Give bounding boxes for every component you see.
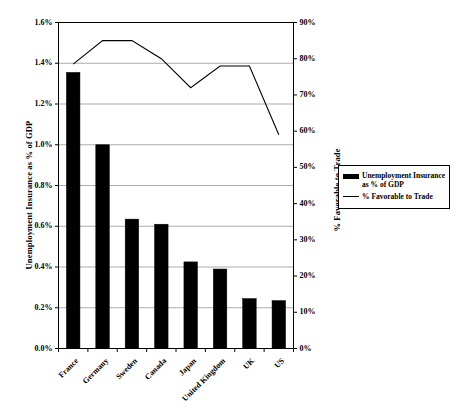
y-axis-left-tick-label: 0.2% — [25, 303, 53, 312]
y-axis-left-tick-label: 1.0% — [25, 140, 53, 149]
y-axis-left-tick-label: 0.6% — [25, 221, 53, 230]
bar-germany — [96, 145, 110, 349]
y-axis-left-tick-label: 0.8% — [25, 181, 53, 190]
plot-area — [0, 0, 458, 419]
legend-item-line: % Favorable to Trade — [342, 192, 446, 201]
y-axis-left-tick-label: 1.4% — [25, 58, 53, 67]
y-axis-left-tick-label: 0.0% — [25, 344, 53, 353]
y-axis-left-ticks — [55, 23, 59, 349]
legend-label-bar-line1: Unemployment Insurance — [362, 171, 445, 180]
y-axis-left-tick-label: 1.2% — [25, 99, 53, 108]
y-axis-right-tick-label: 30% — [300, 235, 330, 244]
bar-japan — [184, 262, 198, 349]
y-axis-right-tick-label: 50% — [300, 162, 330, 171]
bar-uk — [243, 299, 257, 349]
bar-swatch-icon — [343, 174, 359, 179]
y-axis-left-tick-label: 1.6% — [25, 18, 53, 27]
y-axis-right-tick-label: 0% — [300, 344, 330, 353]
y-axis-right-tick-label: 20% — [300, 271, 330, 280]
bar-us — [272, 301, 286, 349]
gridlines — [59, 23, 294, 308]
line-swatch-icon — [343, 196, 359, 197]
legend-label-line: % Favorable to Trade — [362, 192, 433, 201]
legend-item-bar: Unemployment Insurance as % of GDP — [342, 171, 446, 189]
chart-legend: Unemployment Insurance as % of GDP % Fav… — [338, 165, 450, 209]
legend-label-bar: Unemployment Insurance as % of GDP — [362, 171, 445, 189]
x-axis-ticks — [59, 349, 294, 353]
bar-series — [66, 72, 285, 348]
bar-united-kingdom — [213, 269, 227, 348]
bar-sweden — [125, 219, 139, 348]
y-axis-right-tick-label: 70% — [300, 90, 330, 99]
y-axis-left-tick-label: 0.4% — [25, 262, 53, 271]
bar-france — [66, 72, 80, 348]
y-axis-right-tick-label: 40% — [300, 199, 330, 208]
legend-label-bar-line2: as % of GDP — [362, 180, 404, 189]
chart-container: Unemployment Insurance as % of GDP % Fav… — [0, 0, 458, 419]
y-axis-right-tick-label: 80% — [300, 54, 330, 63]
y-axis-right-tick-label: 60% — [300, 126, 330, 135]
line-series — [73, 41, 279, 135]
y-axis-right-tick-label: 10% — [300, 307, 330, 316]
bar-canada — [155, 224, 169, 348]
y-axis-right-tick-label: 90% — [300, 18, 330, 27]
y-axis-right-ticks — [294, 23, 298, 349]
